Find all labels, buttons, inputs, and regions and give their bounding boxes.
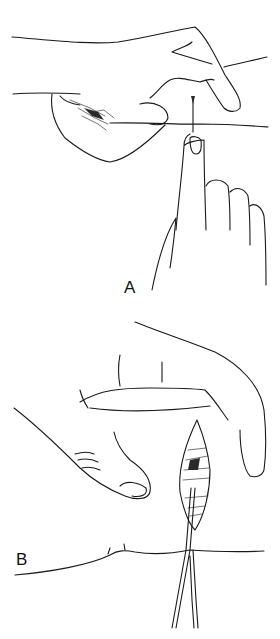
panel-b-label: B (16, 550, 27, 570)
panel-a-palm (152, 218, 176, 290)
panel-a-upper-hand (12, 27, 240, 111)
panel-a-other-fingers (206, 180, 266, 285)
panel-b-forceps (172, 488, 198, 628)
panel-a-fingernail (190, 137, 201, 154)
panel-b-skin-line (15, 550, 264, 575)
panel-a-knuckles (150, 78, 214, 98)
panel-b-incision (180, 420, 210, 530)
panel-a-skin-line-lower (110, 123, 268, 127)
medical-illustration: A B (0, 0, 280, 639)
panel-b-finger-creases (80, 355, 162, 408)
panel-a-pinching-hand (52, 94, 165, 162)
panel-a-drawing (0, 0, 280, 320)
panel-a-skin-line-upper (13, 93, 80, 94)
panel-a-wrist-line (224, 57, 267, 67)
panel-b-incision-shading (183, 448, 209, 516)
panel-b-upper-hand (135, 322, 266, 477)
panel-b-incision-dark (188, 458, 200, 470)
panel-b-drawing (0, 320, 280, 639)
panel-a-label: A (124, 278, 135, 298)
panel-b-left-finger (14, 408, 150, 499)
panel-a-finger-tip (140, 103, 168, 125)
panel-a-needle-tip (191, 96, 195, 104)
panel-b-left-fingernail (120, 482, 146, 496)
panel-b-knuckle-line (80, 388, 228, 420)
panel-a-thumb-crease (172, 42, 212, 64)
